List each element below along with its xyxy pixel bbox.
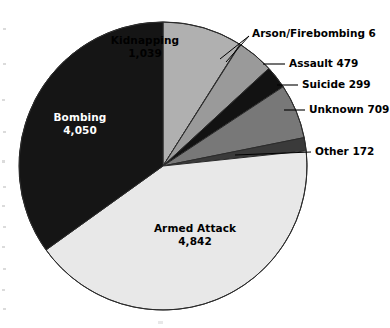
slice-label-kidnapping: Kidnapping 1,039 (111, 34, 179, 61)
callout-label-suicide: Suicide 299 (302, 78, 371, 90)
callout-label-assault: Assault 479 (289, 57, 358, 69)
pie-slices: Kidnapping 1,039Arson/Firebombing 6Assau… (19, 22, 307, 310)
slice-label-armed-attack-name: Armed Attack (154, 222, 236, 234)
slice-label-kidnapping-value: 1,039 (111, 47, 179, 60)
slice-label-armed-attack-value: 4,842 (154, 235, 236, 248)
callout-label-other: Other 172 (315, 145, 374, 157)
callout-label-unknown: Unknown 709 (309, 103, 389, 115)
slice-label-armed-attack: Armed Attack 4,842 (154, 222, 236, 249)
slice-label-bombing-value: 4,050 (54, 124, 107, 137)
slice-label-bombing: Bombing 4,050 (54, 111, 107, 138)
pie-chart-figure: Kidnapping 1,039Arson/Firebombing 6Assau… (0, 0, 390, 328)
slice-label-bombing-name: Bombing (54, 111, 107, 123)
callout-label-arson: Arson/Firebombing 6 (252, 27, 376, 39)
slice-label-kidnapping-name: Kidnapping (111, 34, 179, 46)
pie-svg: Kidnapping 1,039Arson/Firebombing 6Assau… (0, 0, 390, 328)
